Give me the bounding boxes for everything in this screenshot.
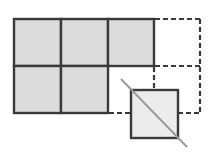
cell-r1-c1 xyxy=(61,66,108,113)
cell-r0-c1 xyxy=(61,19,108,66)
cell-r1-c0 xyxy=(14,66,61,113)
cell-r0-c0 xyxy=(14,19,61,66)
grid-diagram xyxy=(0,0,210,155)
cell-r0-c2 xyxy=(108,19,154,66)
